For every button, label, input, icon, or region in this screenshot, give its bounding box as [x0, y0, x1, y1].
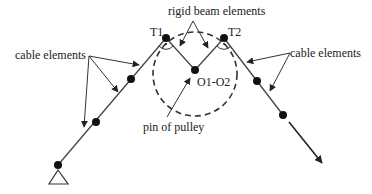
rigid-beam-arrow-2	[193, 21, 208, 48]
cable-left-arrow-3	[84, 56, 89, 127]
angle-dot-t2	[223, 43, 225, 45]
pin-support-icon	[49, 170, 68, 184]
label-cable-right: cable elements	[290, 46, 361, 60]
rigid-beam-right	[195, 38, 224, 70]
node-right-1	[253, 77, 261, 85]
cable-right-arrow-1	[247, 53, 290, 62]
rigid-beam-left	[166, 38, 195, 70]
pin-arrow	[167, 78, 190, 117]
angle-mark-t2	[217, 46, 231, 49]
angle-dot-t1	[165, 43, 167, 45]
label-t1: T1	[150, 25, 163, 39]
node-center	[191, 66, 199, 74]
cable-left-arrow-1	[89, 56, 139, 65]
pulley-diagram: rigid beam elements cable elements cable…	[0, 0, 372, 194]
cable-left-arrow-2	[89, 56, 118, 92]
node-t2	[220, 34, 228, 42]
label-t2: T2	[228, 25, 241, 39]
node-left-base	[54, 161, 62, 169]
cable-right-arrow-2	[270, 53, 290, 91]
right-cable-line	[224, 38, 283, 115]
label-center: O1-O2	[197, 75, 230, 89]
node-right-2	[279, 111, 287, 119]
right-cable-arrow	[289, 122, 322, 163]
node-left-1	[127, 75, 135, 83]
label-rigid-beam: rigid beam elements	[168, 4, 266, 18]
angle-mark-t1	[159, 46, 173, 49]
label-cable-left: cable elements	[15, 48, 86, 62]
node-left-2	[92, 118, 100, 126]
label-pin: pin of pulley	[143, 120, 204, 134]
